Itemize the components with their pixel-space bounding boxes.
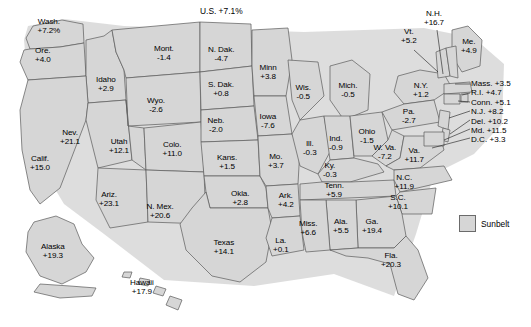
state-name: Minn	[260, 63, 277, 72]
state-name: Vt.	[401, 27, 417, 36]
state-name: N. Dak.	[208, 45, 234, 54]
state-label-wyo: Wyo.-2.6	[147, 96, 165, 115]
state-connecticut	[444, 94, 460, 104]
state-value: +3.7	[268, 161, 284, 170]
state-value: +15.0	[30, 163, 50, 172]
state-name: Alaska	[41, 242, 65, 251]
state-maryland	[424, 132, 444, 146]
state-name: Calif.	[30, 154, 50, 163]
state-name: Wis.	[296, 83, 311, 92]
state-name: Miss.	[299, 219, 317, 228]
state-value: +6.6	[299, 228, 317, 237]
state-name: Iowa	[260, 112, 277, 121]
state-label-utah: Utah+12.1	[109, 137, 129, 156]
state-value: +19.4	[362, 226, 382, 235]
state-value: -2.7	[402, 116, 416, 125]
state-label-idaho: Idaho+2.9	[96, 75, 116, 94]
state-name: Hawaii	[130, 278, 154, 287]
state-value: -0.5	[296, 92, 311, 101]
state-name: Mo.	[268, 152, 284, 161]
us-map-figure: U.S. +7.1% Wash.+7.2%Ore.+4.0Idaho+2.9Mo…	[0, 0, 531, 327]
state-label-la: La.+0.1	[273, 236, 289, 255]
state-name: Wash.	[38, 17, 61, 26]
callout-r-i: R.I. +4.7	[471, 88, 502, 97]
state-value: +20.6	[147, 211, 174, 220]
state-label-mich: Mich.-0.5	[339, 81, 358, 100]
state-alaska-tail	[34, 284, 96, 298]
callout-mass: Mass. +3.5	[471, 79, 511, 88]
state-name: N.C.	[395, 173, 414, 182]
state-name: N.H.	[424, 9, 444, 18]
state-value: +10.1	[388, 202, 408, 211]
state-label-nev: Nev.+21.1	[60, 128, 80, 147]
state-label-s-c: S.C.+10.1	[388, 193, 408, 212]
state-value: +1.5	[217, 162, 237, 171]
state-label-minn: Minn+3.8	[260, 63, 277, 82]
state-name: Ohio	[359, 127, 376, 136]
state-label-mont: Mont.-1.4	[154, 44, 174, 63]
state-name: W. Va.	[374, 143, 397, 152]
state-value: +20.3	[381, 260, 401, 269]
state-label-ala: Ala.+5.5	[333, 217, 349, 236]
state-value: -0.3	[323, 170, 337, 179]
state-name: Utah	[109, 137, 129, 146]
state-label-hawaii: Hawaii+17.9	[130, 278, 154, 297]
state-label-miss: Miss.+6.6	[299, 219, 317, 238]
state-value: +16.7	[424, 18, 444, 27]
state-value: -1.4	[154, 53, 174, 62]
state-label-iowa: Iowa-7.6	[260, 112, 277, 131]
state-name: Ill.	[303, 139, 317, 148]
state-value: +0.1	[273, 245, 289, 254]
state-value: -2.0	[208, 125, 225, 134]
state-label-wis: Wis.-0.5	[296, 83, 311, 102]
state-name: Nev.	[60, 128, 80, 137]
map-title: U.S. +7.1%	[200, 6, 243, 16]
state-name: N.Y.	[413, 81, 429, 90]
state-name: Ariz.	[99, 190, 119, 199]
map-legend: Sunbelt	[459, 215, 509, 232]
state-name: Kans.	[217, 153, 237, 162]
state-minnesota	[252, 28, 292, 96]
state-value: +23.1	[99, 199, 119, 208]
state-value: +2.8	[231, 198, 249, 207]
state-label-vt: Vt.+5.2	[401, 27, 417, 46]
state-label-mo: Mo.+3.7	[268, 152, 284, 171]
state-name: Mont.	[154, 44, 174, 53]
state-label-n-c: N.C.+11.9	[395, 173, 414, 192]
state-name: Fla.	[381, 251, 401, 260]
state-name: Tenn.	[325, 181, 344, 190]
state-name: Neb.	[208, 116, 225, 125]
state-name: Va.	[405, 146, 424, 155]
state-value: +2.9	[96, 84, 116, 93]
state-label-n-dak: N. Dak.-4.7	[208, 45, 234, 64]
state-name: S. Dak.	[208, 80, 234, 89]
state-name: Ala.	[333, 217, 349, 226]
state-label-fla: Fla.+20.3	[381, 251, 401, 270]
state-value: -0.9	[329, 143, 343, 152]
state-value: +14.1	[214, 247, 235, 256]
state-value: +1.2	[413, 90, 429, 99]
state-name: La.	[273, 236, 289, 245]
legend-label-sunbelt: Sunbelt	[481, 219, 509, 229]
state-value: +0.8	[208, 89, 234, 98]
state-value: +11.9	[395, 182, 414, 191]
legend-swatch-sunbelt	[459, 215, 476, 232]
state-label-n-h: N.H.+16.7	[424, 9, 444, 28]
state-label-ga: Ga.+19.4	[362, 217, 382, 236]
state-value: -0.5	[339, 90, 358, 99]
state-name: Ind.	[329, 134, 343, 143]
state-label-n-mex: N. Mex.+20.6	[147, 202, 174, 221]
state-value: -0.3	[303, 148, 317, 157]
state-name: Ga.	[362, 217, 382, 226]
state-label-pa: Pa.-2.7	[402, 107, 416, 126]
state-label-ark: Ark.+4.2	[278, 191, 294, 210]
state-value: +3.8	[260, 72, 277, 81]
state-rhode-island	[461, 94, 468, 102]
callout-d-c: D.C. +3.3	[471, 135, 505, 144]
state-value: +4.2	[278, 200, 294, 209]
state-value: +12.1	[109, 146, 129, 155]
state-name: Okla.	[231, 189, 249, 198]
state-value: -4.7	[208, 54, 234, 63]
state-name: Ore.	[35, 46, 51, 55]
state-label-wash: Wash.+7.2%	[38, 17, 61, 36]
